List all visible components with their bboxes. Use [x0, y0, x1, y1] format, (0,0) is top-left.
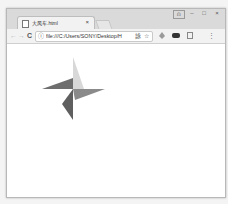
pinwheel-blade-left: [42, 78, 73, 89]
pinwheel-canvas: [0, 0, 228, 204]
pinwheel-blade-bottom: [62, 89, 73, 120]
pinwheel-blade-right: [73, 89, 105, 100]
pinwheel-blade-top: [73, 57, 84, 89]
